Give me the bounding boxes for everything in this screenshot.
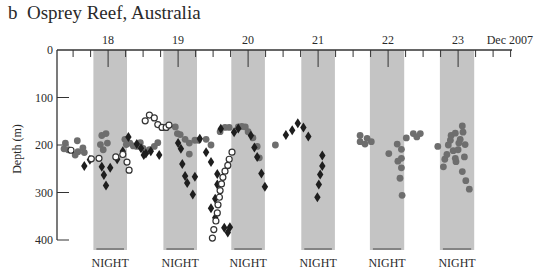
diamond-marker [295, 118, 301, 128]
diamond-marker [81, 161, 87, 171]
night-label: NIGHT [438, 256, 476, 270]
open-circle-marker [209, 235, 215, 241]
diamond-marker [283, 130, 289, 140]
open-circle-marker [215, 202, 221, 208]
night-label: NIGHT [368, 256, 406, 270]
open-circle-marker [226, 156, 232, 162]
y-tick-label: 400 [35, 233, 53, 247]
x-tick-label: 18 [102, 33, 114, 47]
depth-time-scatter-chart: NIGHTNIGHTNIGHTNIGHTNIGHTNIGHT1819202122… [0, 0, 536, 274]
open-circle-marker [211, 227, 217, 233]
open-circle-marker [96, 155, 102, 161]
open-circle-marker [124, 159, 130, 165]
filled-circle-marker [272, 142, 279, 149]
filled-circle-marker [403, 134, 410, 141]
night-label: NIGHT [229, 256, 267, 270]
filled-circle-marker [452, 130, 459, 137]
filled-circle-marker [397, 175, 404, 182]
diamond-marker [289, 125, 295, 135]
y-tick-label: 300 [35, 186, 53, 200]
y-tick-label: 200 [35, 138, 53, 152]
open-circle-marker [219, 181, 225, 187]
filled-circle-marker [466, 186, 473, 193]
open-circle-marker [126, 167, 132, 173]
filled-circle-marker [459, 123, 466, 130]
filled-circle-marker [455, 140, 462, 147]
filled-circle-marker [417, 130, 424, 137]
open-circle-marker [213, 218, 219, 224]
diamond-marker [156, 150, 162, 160]
night-label: NIGHT [162, 256, 200, 270]
x-tick-label: 23 [452, 33, 464, 47]
filled-circle-marker [462, 177, 469, 184]
filled-circle-marker [62, 140, 69, 147]
open-circle-marker [166, 122, 172, 128]
open-circle-marker [229, 149, 235, 155]
open-circle-marker [113, 154, 119, 160]
y-tick-label: 0 [47, 43, 53, 57]
filled-circle-marker [385, 150, 392, 157]
filled-circle-marker [104, 140, 111, 147]
filled-circle-marker [357, 132, 364, 139]
open-circle-marker [120, 152, 126, 158]
filled-circle-marker [177, 131, 184, 138]
filled-circle-marker [399, 192, 406, 199]
filled-circle-marker [461, 153, 468, 160]
filled-circle-marker [368, 138, 375, 145]
filled-circle-marker [440, 163, 447, 170]
open-circle-marker [222, 168, 228, 174]
filled-circle-marker [74, 137, 81, 144]
open-circle-marker [225, 162, 231, 168]
open-circle-marker [88, 156, 94, 162]
x-month-label: Dec 2007 [487, 33, 533, 47]
open-circle-marker [220, 174, 226, 180]
open-circle-marker [68, 147, 74, 153]
open-circle-marker [214, 210, 220, 216]
night-band [301, 50, 335, 250]
y-tick-label: 100 [35, 91, 53, 105]
x-tick-label: 19 [172, 33, 184, 47]
open-circle-marker [142, 118, 148, 124]
filled-circle-marker [100, 146, 107, 153]
night-band [231, 50, 265, 250]
filled-circle-marker [172, 124, 179, 131]
filled-circle-marker [186, 151, 193, 158]
filled-circle-marker [434, 143, 441, 150]
night-label: NIGHT [92, 256, 130, 270]
filled-circle-marker [455, 146, 462, 153]
diamond-marker [208, 203, 214, 213]
filled-circle-marker [398, 146, 405, 153]
diamond-marker [208, 157, 214, 167]
x-tick-label: 22 [382, 33, 394, 47]
x-tick-label: 21 [312, 33, 324, 47]
night-label: NIGHT [299, 256, 337, 270]
filled-circle-marker [459, 168, 466, 175]
open-circle-marker [151, 115, 157, 121]
diamond-marker [203, 147, 209, 157]
filled-circle-marker [226, 124, 233, 131]
filled-circle-marker [460, 129, 467, 136]
x-tick-label: 20 [242, 33, 254, 47]
filled-circle-marker [208, 142, 215, 149]
filled-circle-marker [395, 158, 402, 165]
filled-circle-marker [452, 155, 459, 162]
filled-circle-marker [203, 136, 210, 143]
open-circle-marker [217, 188, 223, 194]
open-circle-marker [216, 194, 222, 200]
filled-circle-marker [103, 130, 110, 137]
y-axis-label: Depth (m) [10, 124, 24, 174]
filled-circle-marker [444, 151, 451, 158]
filled-circle-marker [154, 139, 161, 146]
filled-circle-marker [462, 141, 469, 148]
series-open-circle [68, 112, 235, 241]
filled-circle-marker [398, 164, 405, 171]
filled-circle-marker [81, 149, 88, 156]
